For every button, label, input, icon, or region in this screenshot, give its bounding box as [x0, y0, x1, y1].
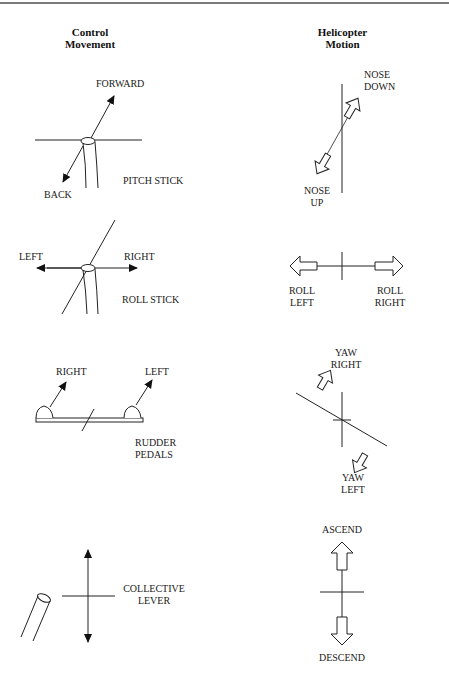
- label-pedal-left: LEFT: [145, 366, 169, 378]
- label-line: RIGHT: [326, 359, 366, 371]
- label-roll-left: ROLL LEFT: [285, 285, 319, 309]
- ascend-arrow-icon: [331, 542, 353, 570]
- nose-down-arrow-icon: [340, 94, 365, 121]
- pitch-motion-diagram: [310, 84, 365, 193]
- label-roll-right: ROLL RIGHT: [373, 285, 407, 309]
- vertical-motion-diagram: [320, 542, 364, 645]
- label-line: COLLECTIVE: [119, 583, 189, 595]
- roll-motion-diagram: [290, 252, 403, 280]
- label-line: LEVER: [119, 595, 189, 607]
- collective-lever-diagram: [21, 550, 115, 642]
- label-line: YAW: [326, 347, 366, 359]
- label-line: NOSE: [364, 69, 395, 81]
- label-forward: FORWARD: [96, 78, 144, 90]
- label-pitch-stick: PITCH STICK: [123, 175, 183, 187]
- back-arrow-icon: [63, 146, 83, 182]
- label-nose-up: NOSE UP: [300, 185, 334, 209]
- nose-up-arrow-icon: [310, 151, 335, 178]
- label-line: DOWN: [364, 81, 395, 93]
- label-line: UP: [300, 197, 334, 209]
- roll-left-arrow-icon: [290, 256, 317, 276]
- label-left: LEFT: [19, 251, 43, 263]
- label-line: LEFT: [285, 297, 319, 309]
- label-back: BACK: [44, 189, 72, 201]
- label-collective-lever: COLLECTIVE LEVER: [119, 583, 189, 607]
- label-rudder-pedals: RUDDER PEDALS: [135, 437, 176, 461]
- rudder-pedals-diagram: [36, 380, 152, 431]
- forward-arrow-icon: [91, 96, 114, 138]
- roll-right-arrow-icon: [375, 256, 403, 276]
- label-line: NOSE: [300, 185, 334, 197]
- right-pedal-arrow-icon: [50, 382, 66, 407]
- label-line: LEFT: [333, 484, 373, 496]
- label-line: PEDALS: [135, 449, 176, 461]
- label-yaw-right: YAW RIGHT: [326, 347, 366, 371]
- yaw-motion-diagram: [296, 366, 387, 476]
- label-roll-stick: ROLL STICK: [122, 294, 179, 306]
- label-yaw-left: YAW LEFT: [333, 472, 373, 496]
- label-right: RIGHT: [124, 251, 155, 263]
- label-line: ROLL: [373, 285, 407, 297]
- descend-arrow-icon: [331, 617, 353, 645]
- label-line: RUDDER: [135, 437, 176, 449]
- label-line: YAW: [333, 472, 373, 484]
- label-line: RIGHT: [373, 297, 407, 309]
- label-nose-down: NOSE DOWN: [364, 69, 395, 93]
- label-line: ROLL: [285, 285, 319, 297]
- label-descend: DESCEND: [312, 652, 372, 664]
- label-ascend: ASCEND: [315, 524, 369, 536]
- label-pedal-right: RIGHT: [56, 366, 87, 378]
- left-pedal-arrow-icon: [136, 380, 152, 405]
